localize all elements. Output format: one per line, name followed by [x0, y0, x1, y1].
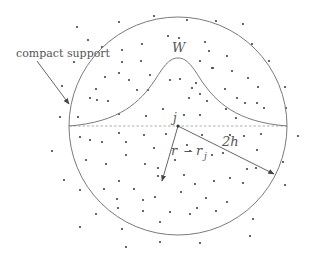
particle-dot: [236, 97, 238, 99]
svg-text:r: r: [171, 143, 178, 158]
particle-dot: [195, 82, 197, 84]
particle-dot: [256, 102, 258, 104]
particle-dot: [133, 188, 135, 190]
particle-dot: [186, 19, 188, 21]
particle-dot: [154, 196, 156, 198]
particle-dot: [51, 150, 53, 152]
particle-dot: [167, 35, 169, 37]
particle-dot: [104, 76, 106, 78]
particle-dot: [243, 135, 245, 137]
svg-text:−: −: [183, 144, 193, 158]
particle-dot: [125, 154, 127, 156]
particle-dot: [268, 60, 270, 62]
particle-dot: [169, 211, 171, 213]
particle-dot: [128, 79, 130, 81]
particle-dot: [297, 135, 299, 137]
particle-dot: [125, 246, 127, 248]
particle-dot: [235, 117, 237, 119]
particle-dot: [194, 183, 196, 185]
particle-dot: [205, 197, 207, 199]
particle-dot: [256, 149, 258, 151]
particle-dot: [224, 88, 226, 90]
particle-dot: [153, 147, 155, 149]
particle-dot: [76, 26, 78, 28]
particle-dot: [79, 136, 81, 138]
particle-dot: [215, 210, 217, 212]
particle-dot: [145, 115, 147, 117]
particle-dot: [263, 107, 265, 109]
particle-dot: [87, 39, 89, 41]
particle-dot: [284, 86, 286, 88]
particle-dot: [213, 180, 215, 182]
particle-dot: [73, 61, 75, 63]
particle-dot: [222, 152, 224, 154]
particle-dot: [85, 159, 87, 161]
particle-dot: [149, 74, 151, 76]
particle-dot: [225, 108, 227, 110]
particle-dot: [211, 154, 213, 156]
particle-dot: [118, 72, 120, 74]
particle-dot: [118, 180, 120, 182]
particle-dot: [196, 207, 198, 209]
particle-dot: [143, 134, 145, 136]
particle-dot: [199, 60, 201, 62]
particle-dot: [140, 60, 142, 62]
particle-dot: [229, 177, 231, 179]
svg-text:j: j: [202, 151, 207, 161]
particle-dot: [121, 228, 123, 230]
particle-dot: [59, 116, 61, 118]
particle-dot: [284, 184, 286, 186]
particle-dot: [199, 242, 201, 244]
particle-dot: [178, 37, 180, 39]
particle-dot: [183, 174, 185, 176]
particle-dot: [204, 41, 206, 43]
svg-text:r: r: [196, 143, 203, 158]
particle-dot: [96, 99, 98, 101]
particle-dot: [208, 50, 210, 52]
particle-dot: [226, 201, 228, 203]
particle-dot: [142, 210, 144, 212]
particle-dot: [89, 97, 91, 99]
particle-dot: [125, 141, 127, 143]
particle-dot: [144, 163, 146, 165]
particle-dot: [136, 89, 138, 91]
particle-dot: [118, 21, 120, 23]
particle-dot: [61, 85, 63, 87]
particle-dot: [121, 61, 123, 63]
particle-dot: [162, 108, 164, 110]
particle-dot: [231, 70, 233, 72]
particle-dot: [257, 86, 259, 88]
particle-dot: [242, 23, 244, 25]
particle-dot: [249, 235, 251, 237]
particle-dot: [141, 43, 143, 45]
particle-dot: [105, 163, 107, 165]
particle-dot: [191, 87, 193, 89]
particle-dot: [206, 100, 208, 102]
particle-dot: [215, 20, 217, 22]
r-minus-rj-label: r − r j: [171, 143, 207, 161]
particle-dot: [153, 15, 155, 17]
particle-dot: [247, 77, 249, 79]
particle-dot: [157, 175, 159, 177]
particle-dot: [79, 226, 81, 228]
particle-dot: [159, 221, 161, 223]
particle-dot: [282, 161, 284, 163]
particle-dot: [244, 102, 246, 104]
particle-dot: [183, 114, 185, 116]
particle-j-label: j: [170, 111, 177, 125]
particle-dot: [63, 179, 65, 181]
particle-j-dot: [176, 124, 179, 127]
particle-dot: [89, 139, 91, 141]
particle-dot: [95, 213, 97, 215]
particle-dot: [201, 134, 203, 136]
particle-dot: [246, 168, 248, 170]
kernel-curve: [69, 58, 287, 126]
particle-dot: [252, 218, 254, 220]
particle-dot: [107, 100, 109, 102]
particle-dot: [117, 207, 119, 209]
kernel-w-label: W: [172, 40, 187, 55]
radius-2h-label: 2h: [221, 134, 239, 149]
particle-dot: [116, 198, 118, 200]
particle-dot: [260, 133, 262, 135]
particle-dot: [180, 191, 182, 193]
